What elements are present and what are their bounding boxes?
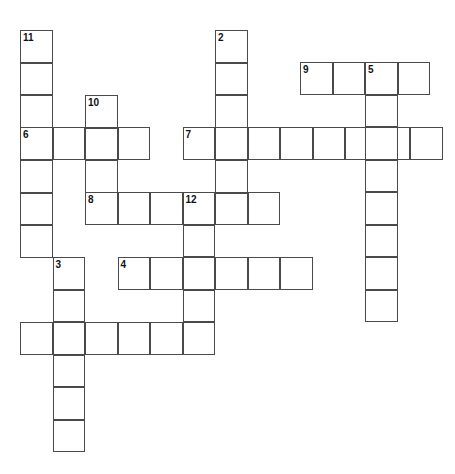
crossword-cell[interactable]	[85, 128, 118, 161]
crossword-cell[interactable]	[150, 192, 183, 225]
crossword-cell[interactable]	[53, 257, 86, 290]
crossword-cell[interactable]	[280, 257, 313, 290]
crossword-cell[interactable]	[410, 127, 443, 160]
crossword-cell[interactable]	[215, 193, 248, 226]
crossword-cell[interactable]	[20, 63, 53, 96]
crossword-cell[interactable]	[20, 30, 53, 63]
crossword-cell[interactable]	[365, 95, 398, 128]
crossword-cell[interactable]	[183, 322, 216, 355]
crossword-cell[interactable]	[183, 290, 216, 323]
crossword-cell[interactable]	[20, 127, 53, 160]
crossword-grid[interactable]: 11631084712295	[0, 0, 455, 474]
crossword-cell[interactable]	[183, 127, 216, 160]
crossword-cell[interactable]	[365, 160, 398, 193]
crossword-cell[interactable]	[53, 322, 86, 355]
crossword-cell[interactable]	[313, 127, 346, 160]
crossword-cell[interactable]	[365, 225, 398, 258]
crossword-cell[interactable]	[53, 387, 86, 420]
crossword-cell[interactable]	[118, 127, 151, 160]
crossword-cell[interactable]	[365, 290, 398, 323]
crossword-cell[interactable]	[365, 127, 398, 160]
crossword-cell[interactable]	[248, 257, 281, 290]
crossword-cell[interactable]	[85, 322, 118, 355]
crossword-cell[interactable]	[85, 160, 118, 193]
crossword-cell[interactable]	[20, 160, 53, 193]
crossword-cell[interactable]	[300, 62, 333, 95]
crossword-cell[interactable]	[53, 290, 86, 323]
crossword-cell[interactable]	[280, 127, 313, 160]
crossword-cell[interactable]	[215, 95, 248, 128]
crossword-cell[interactable]	[365, 257, 398, 290]
crossword-cell[interactable]	[398, 62, 431, 95]
crossword-cell[interactable]	[365, 62, 398, 95]
crossword-cell[interactable]	[20, 225, 53, 258]
crossword-cell[interactable]	[215, 160, 248, 193]
crossword-cell[interactable]	[215, 63, 248, 96]
crossword-puzzle: 11631084712295	[0, 0, 455, 474]
crossword-cell[interactable]	[183, 225, 216, 258]
crossword-cell[interactable]	[248, 127, 281, 160]
crossword-cell[interactable]	[150, 322, 183, 355]
crossword-cell[interactable]	[85, 95, 118, 128]
crossword-cell[interactable]	[215, 127, 248, 160]
crossword-cell[interactable]	[183, 192, 216, 225]
crossword-cell[interactable]	[248, 192, 281, 225]
crossword-cell[interactable]	[20, 95, 53, 128]
crossword-cell[interactable]	[85, 192, 118, 225]
crossword-cell[interactable]	[118, 192, 151, 225]
crossword-cell[interactable]	[365, 192, 398, 225]
crossword-cell[interactable]	[333, 62, 366, 95]
crossword-cell[interactable]	[118, 257, 151, 290]
crossword-cell[interactable]	[215, 257, 248, 290]
crossword-cell[interactable]	[20, 322, 53, 355]
crossword-cell[interactable]	[53, 355, 86, 388]
crossword-cell[interactable]	[53, 127, 86, 160]
crossword-cell[interactable]	[20, 193, 53, 226]
crossword-cell[interactable]	[118, 322, 151, 355]
crossword-cell[interactable]	[215, 30, 248, 63]
crossword-cell[interactable]	[53, 420, 86, 453]
crossword-cell[interactable]	[183, 257, 216, 290]
crossword-cell[interactable]	[150, 257, 183, 290]
